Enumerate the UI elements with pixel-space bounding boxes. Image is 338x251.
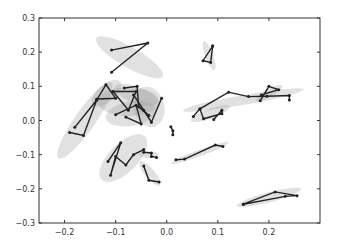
data-point: [211, 45, 214, 48]
data-point: [142, 148, 145, 151]
data-point: [68, 131, 71, 134]
data-point: [288, 99, 291, 102]
x-tick-label: 0.1: [211, 228, 224, 237]
data-point: [150, 151, 153, 154]
data-point: [198, 107, 201, 110]
data-point: [147, 179, 150, 182]
data-point: [142, 164, 145, 167]
data-point: [214, 144, 217, 147]
data-point: [104, 83, 107, 86]
data-point: [202, 117, 205, 120]
data-point: [109, 174, 112, 177]
y-tick-label: 0.1: [22, 82, 35, 91]
data-point: [95, 97, 98, 100]
data-point: [142, 151, 145, 154]
data-point: [140, 122, 143, 125]
data-point: [174, 158, 177, 161]
data-point: [114, 97, 117, 100]
ellipse-g16: [170, 139, 230, 166]
y-tick-label: −0.1: [16, 151, 35, 160]
data-point: [158, 181, 161, 184]
data-point: [277, 88, 280, 91]
y-tick-label: 0.2: [22, 48, 35, 57]
data-point: [227, 91, 230, 94]
data-point: [142, 109, 145, 112]
data-point: [265, 95, 268, 98]
ellipse-g17: [236, 184, 303, 211]
data-point: [274, 190, 277, 193]
y-tick-label: −0.3: [16, 219, 35, 228]
data-point: [146, 41, 149, 44]
data-point: [110, 49, 113, 52]
data-point: [183, 158, 186, 161]
confidence-ellipses: [50, 29, 304, 210]
data-point: [160, 97, 163, 100]
data-point: [155, 156, 158, 159]
x-tick-label: −0.2: [55, 228, 74, 237]
ellipse-g2: [200, 40, 218, 72]
y-tick-label: −0.2: [16, 185, 35, 194]
y-tick-label: 0.3: [22, 14, 35, 23]
data-point: [136, 85, 139, 88]
x-tick-label: 0.0: [160, 228, 173, 237]
data-point: [209, 61, 212, 64]
x-tick-label: 0.2: [263, 228, 276, 237]
data-point: [132, 93, 135, 96]
data-point: [135, 104, 138, 107]
data-point: [220, 109, 223, 112]
data-point: [260, 93, 263, 96]
data-point: [119, 141, 122, 144]
data-point: [169, 125, 172, 128]
data-point: [110, 71, 113, 74]
data-point: [220, 112, 223, 115]
data-point: [267, 85, 270, 88]
data-point: [171, 129, 174, 132]
data-point: [132, 153, 135, 156]
data-point: [82, 134, 85, 137]
data-point: [124, 163, 127, 166]
data-point: [247, 95, 250, 98]
data-point: [106, 160, 109, 163]
x-tick-label: −0.1: [106, 228, 125, 237]
data-point: [124, 116, 127, 119]
data-point: [221, 145, 224, 148]
data-point: [150, 155, 153, 158]
data-point: [123, 87, 126, 90]
data-point: [171, 133, 174, 136]
data-point: [73, 126, 76, 129]
data-point: [202, 59, 205, 62]
data-point: [192, 115, 195, 118]
chart: −0.2−0.10.00.10.2 0.30.20.10.0−0.1−0.2−0…: [0, 0, 338, 251]
data-point: [296, 194, 299, 197]
data-point: [112, 90, 115, 93]
y-tick-label: 0.0: [22, 117, 35, 126]
data-point: [288, 94, 291, 97]
data-point: [212, 118, 215, 121]
ellipse-g15: [136, 159, 163, 189]
ellipse-g13: [91, 126, 155, 190]
data-point: [137, 105, 140, 108]
data-series: [68, 41, 298, 205]
data-point: [242, 203, 245, 206]
data-point: [284, 195, 287, 198]
data-point: [114, 113, 117, 116]
data-point: [259, 99, 262, 102]
data-point: [150, 121, 153, 124]
data-point: [114, 155, 117, 158]
